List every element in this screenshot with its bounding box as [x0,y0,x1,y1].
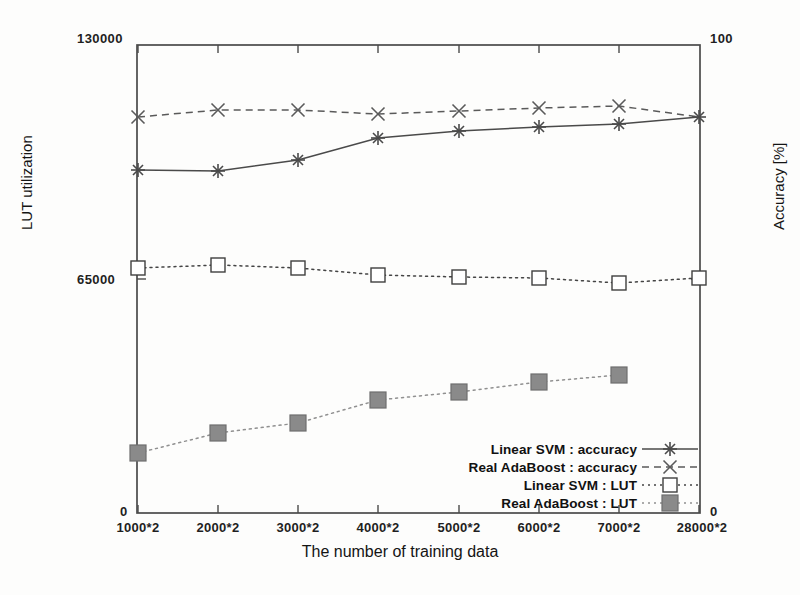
x-axis-tick-4: 5000*2 [437,520,480,535]
legend-label-real-adaboost-accuracy: Real AdaBoost : accuracy [469,460,637,475]
x-axis-tick-2: 3000*2 [276,520,319,535]
chart-figure: 130000 65000 0 100 0 1000*2 2000*2 3000*… [0,0,800,595]
series-linear-svm-lut [131,258,706,290]
y-axis-right-tick-bottom: 0 [710,504,718,519]
legend-label-linear-svm-lut: Linear SVM : LUT [524,478,637,493]
legend-item-real-adaboost-accuracy: Real AdaBoost : accuracy [430,458,698,476]
y-axis-left-title: LUT utilization [18,135,35,230]
legend-item-real-adaboost-lut: Real AdaBoost : LUT [430,494,698,512]
series-linear-svm-accuracy [131,110,706,178]
x-axis-tick-5: 6000*2 [517,520,560,535]
x-axis-tick-7: 28000*2 [677,520,728,535]
legend-key-open-square-dotted-icon [642,476,698,494]
legend-label-real-adaboost-lut: Real AdaBoost : LUT [501,496,637,511]
legend-key-cross-dashed-icon [642,458,698,476]
y-axis-right-tick-top: 100 [710,31,733,46]
legend-key-asterisk-solid-icon [642,440,698,458]
x-axis-tick-6: 7000*2 [597,520,640,535]
x-axis-tick-0: 1000*2 [116,520,159,535]
legend-label-linear-svm-accuracy: Linear SVM : accuracy [491,442,637,457]
x-axis-tick-1: 2000*2 [196,520,239,535]
legend-item-linear-svm-lut: Linear SVM : LUT [430,476,698,494]
legend-key-filled-square-dotted-icon [642,494,698,512]
x-axis-tick-3: 4000*2 [356,520,399,535]
legend-item-linear-svm-accuracy: Linear SVM : accuracy [430,440,698,458]
chart-legend: Linear SVM : accuracy Real AdaBoost : ac… [430,440,698,512]
y-axis-left-tick-middle: 65000 [77,272,115,287]
y-axis-left-tick-top: 130000 [77,31,123,46]
y-axis-left-tick-bottom: 0 [120,504,128,519]
y-axis-right-title: Accuracy [%] [770,142,787,230]
x-axis-title: The number of training data [0,543,800,561]
